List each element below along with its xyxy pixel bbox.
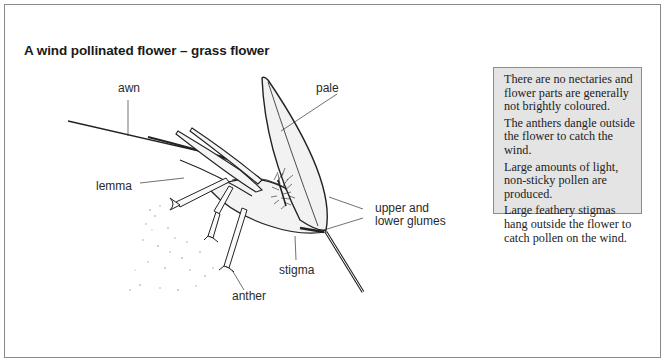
- label-awn: awn: [118, 82, 140, 95]
- info-point-2: The anthers dangle outside the flower to…: [504, 117, 635, 158]
- label-glumes-line2: lower glumes: [375, 215, 446, 228]
- info-point-3: Large amounts of light, non-sticky polle…: [504, 161, 635, 202]
- pollen-grains: [129, 205, 213, 291]
- info-point-4: Large feathery stigmas hang outside the …: [504, 204, 635, 245]
- label-pale: pale: [316, 82, 339, 95]
- stalk: [326, 232, 363, 292]
- info-point-1: There are no nectaries and flower parts …: [504, 73, 635, 114]
- label-anther: anther: [232, 290, 266, 303]
- info-box: There are no nectaries and flower parts …: [493, 67, 642, 214]
- label-stigma: stigma: [279, 264, 314, 277]
- label-lemma: lemma: [96, 180, 132, 193]
